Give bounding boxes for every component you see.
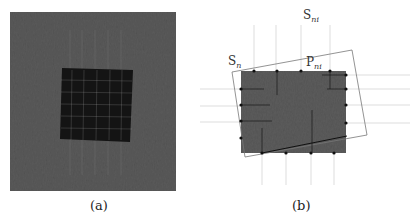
caption-a: (a) <box>90 198 108 213</box>
sample-point <box>344 103 347 106</box>
sample-point <box>252 69 255 72</box>
sample-point <box>344 121 347 124</box>
panel-b: Sni Sn Pni <box>200 8 410 185</box>
sample-point <box>260 151 263 154</box>
sample-point <box>344 73 347 76</box>
sample-point <box>309 151 312 154</box>
figure-canvas: Sni Sn Pni <box>0 0 413 220</box>
sample-point <box>275 69 278 72</box>
label-p-ni: Pni <box>306 55 322 71</box>
sample-point <box>239 136 242 139</box>
sample-point <box>284 151 287 154</box>
sample-point <box>344 87 347 90</box>
sample-point <box>328 69 331 72</box>
sample-point <box>332 151 335 154</box>
sample-point <box>299 69 302 72</box>
panel-a <box>10 12 176 191</box>
sample-point <box>239 119 242 122</box>
sample-point <box>239 103 242 106</box>
label-s-ni: Sni <box>303 8 319 24</box>
label-s-n: Sn <box>228 54 241 70</box>
sample-point <box>239 87 242 90</box>
caption-b: (b) <box>292 198 310 213</box>
